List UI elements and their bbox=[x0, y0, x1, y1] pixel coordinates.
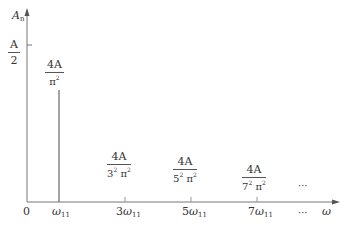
x-tick-label-3: 3ω11 bbox=[116, 206, 141, 219]
x-axis-arrow-icon bbox=[332, 200, 340, 205]
chart-canvas bbox=[0, 0, 347, 229]
x-tick-label-7: 7ω11 bbox=[248, 206, 273, 219]
amplitude-label-7: 4A 72 π2 bbox=[242, 163, 266, 192]
y-axis-label: An bbox=[12, 10, 24, 23]
amplitude-label-1: 4A π2 bbox=[45, 58, 64, 87]
origin-label: 0 bbox=[23, 206, 30, 217]
amplitude-label-5: 4A 52 π2 bbox=[173, 155, 197, 184]
x-tick-label-5: 5ω11 bbox=[182, 206, 207, 219]
x-tick-ellipsis: ··· bbox=[298, 208, 308, 218]
x-tick-label-1: ω11 bbox=[52, 206, 70, 219]
y-axis-arrow-icon bbox=[25, 8, 30, 16]
x-axis-label: ω bbox=[322, 206, 331, 217]
amplitude-label-3: 4A 32 π2 bbox=[107, 150, 131, 179]
amplitude-ellipsis: ··· bbox=[298, 181, 308, 191]
y-tick-label-a-half: A 2 bbox=[8, 38, 20, 67]
